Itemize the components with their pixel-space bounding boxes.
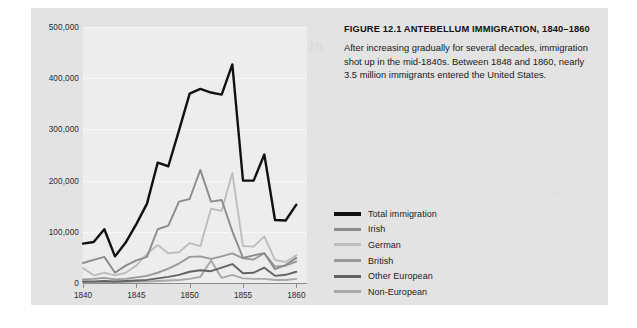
legend-item[interactable]: German [334,237,514,253]
legend-item-label: British [368,256,393,266]
y-axis-tick-label: 0 [33,279,79,288]
legend-item-label: Non-European [368,287,427,297]
figure-panel: nt Movement decades, immigration Between… [31,8,608,305]
legend-swatch-icon [334,228,361,231]
series-line [83,64,296,256]
y-axis-tick-label: 200,000 [33,176,79,185]
x-axis-tick-label: 1855 [234,291,252,300]
x-axis-line [83,283,307,284]
x-axis-tick [190,284,191,288]
x-axis-tick [243,284,244,288]
legend-swatch-icon [334,259,361,262]
figure-root: nt Movement decades, immigration Between… [0,0,637,328]
legend-item-label: Other European [368,271,433,281]
caption-body: After increasing gradually for several d… [344,41,596,82]
x-axis-tick-label: 1845 [127,291,145,300]
x-axis-tick-label: 1840 [74,291,92,300]
legend-item[interactable]: Irish [334,222,514,238]
x-axis-tick-label: 1850 [181,291,199,300]
figure-caption: FIGURE 12.1 ANTEBELLUM IMMIGRATION, 1840… [344,24,596,82]
legend-swatch-icon [334,243,361,246]
legend-item[interactable]: Total immigration [334,206,514,222]
legend-item-label: Total immigration [368,209,437,219]
series-lines [83,27,307,283]
chart-legend: Total immigrationIrishGermanBritishOther… [334,206,514,300]
x-axis-tick [136,284,137,288]
y-axis-tick-label: 400,000 [33,74,79,83]
legend-item-label: Irish [368,224,385,234]
y-axis-tick-label: 100,000 [33,227,79,236]
series-line [83,173,296,275]
x-axis-tick [296,284,297,288]
y-axis-tick-label: 300,000 [33,125,79,134]
legend-swatch-icon [334,275,361,278]
y-axis: 0100,000200,000300,000400,000500,000 [31,8,79,305]
legend-swatch-icon [334,212,361,216]
x-axis-tick [83,284,84,288]
x-axis-tick-label: 1860 [287,291,305,300]
chart: 0100,000200,000300,000400,000500,000 184… [31,8,331,305]
legend-swatch-icon [334,290,361,293]
caption-title: FIGURE 12.1 ANTEBELLUM IMMIGRATION, 1840… [344,24,596,34]
legend-item[interactable]: Other European [334,268,514,284]
legend-item[interactable]: British [334,253,514,269]
ghost-text-right: of [551,188,558,197]
legend-item-label: German [368,240,401,250]
plot-area [83,27,307,283]
legend-item[interactable]: Non-European [334,284,514,300]
y-axis-tick-label: 500,000 [33,23,79,32]
